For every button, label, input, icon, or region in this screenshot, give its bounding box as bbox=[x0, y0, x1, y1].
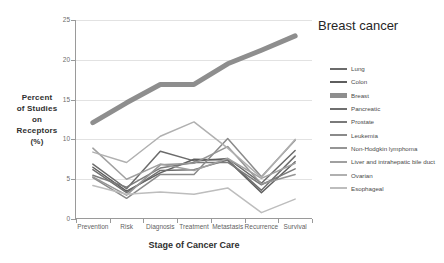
legend-item-label: Breast bbox=[351, 92, 369, 99]
x-axis-tick-label: Risk bbox=[120, 223, 133, 230]
legend: LungColonBreastPancreaticProstateLeukemi… bbox=[330, 62, 442, 195]
x-axis-tick-mark bbox=[245, 219, 246, 223]
x-axis-tick-mark bbox=[143, 219, 144, 223]
y-axis-tick-label: 15 bbox=[50, 96, 70, 103]
legend-swatch-icon bbox=[330, 93, 347, 98]
x-axis-tick-mark bbox=[177, 219, 178, 223]
y-axis-tick-label: 0 bbox=[50, 215, 70, 222]
legend-item[interactable]: Prostate bbox=[330, 115, 442, 128]
y-axis-label-line: on bbox=[8, 114, 66, 125]
x-axis-tick-label: Survival bbox=[284, 223, 307, 230]
x-axis-label: Stage of Cancer Care bbox=[76, 240, 312, 250]
legend-swatch-icon bbox=[330, 81, 347, 83]
legend-item-label: Prostate bbox=[351, 118, 374, 125]
x-axis-tick-mark bbox=[312, 219, 313, 223]
y-axis-label-line: of Studies bbox=[8, 103, 66, 114]
legend-swatch-icon bbox=[330, 187, 347, 189]
x-axis-tick-label: Treatment bbox=[179, 223, 208, 230]
legend-swatch-icon bbox=[330, 174, 347, 176]
breast-cancer-annotation: Breast cancer bbox=[318, 18, 398, 33]
line-chart-figure: Percent of Studies on Receptors (%) 0510… bbox=[0, 0, 444, 263]
legend-swatch-icon bbox=[330, 121, 347, 123]
legend-item-label: Colon bbox=[351, 78, 367, 85]
legend-item-label: Non-Hodgkin lymphoma bbox=[351, 145, 417, 152]
legend-item-label: Liver and intrahepatic bile duct bbox=[351, 158, 435, 165]
legend-item-label: Esophageal bbox=[351, 185, 384, 192]
legend-item-label: Pancreatic bbox=[351, 105, 380, 112]
legend-swatch-icon bbox=[330, 134, 347, 136]
legend-swatch-icon bbox=[330, 108, 347, 110]
plot-area: 0510152025 PreventionRiskDiagnosisTreatm… bbox=[76, 20, 312, 219]
y-axis-tick-label: 25 bbox=[50, 16, 70, 23]
legend-swatch-icon bbox=[330, 68, 347, 70]
legend-item-label: Lung bbox=[351, 65, 365, 72]
legend-item[interactable]: Breast bbox=[330, 89, 442, 102]
x-axis-tick-mark bbox=[76, 219, 77, 223]
legend-swatch-icon bbox=[330, 161, 347, 163]
x-axis-tick-mark bbox=[110, 219, 111, 223]
legend-item[interactable]: Leukemia bbox=[330, 128, 442, 141]
y-axis-tick-label: 10 bbox=[50, 135, 70, 142]
legend-item[interactable]: Ovarian bbox=[330, 168, 442, 181]
x-axis-tick-mark bbox=[211, 219, 212, 223]
x-axis-tick-mark bbox=[278, 219, 279, 223]
y-axis-tick-label: 5 bbox=[50, 175, 70, 182]
y-axis-tick-label: 20 bbox=[50, 56, 70, 63]
x-axis-tick-label: Recurrence bbox=[245, 223, 279, 230]
legend-item[interactable]: Pancreatic bbox=[330, 102, 442, 115]
legend-item[interactable]: Non-Hodgkin lymphoma bbox=[330, 142, 442, 155]
x-axis-tick-label: Prevention bbox=[77, 223, 108, 230]
legend-item-label: Leukemia bbox=[351, 132, 378, 139]
legend-item-label: Ovarian bbox=[351, 172, 373, 179]
series-lines bbox=[76, 20, 312, 219]
legend-item[interactable]: Liver and intrahepatic bile duct bbox=[330, 155, 442, 168]
legend-item[interactable]: Lung bbox=[330, 62, 442, 75]
x-axis-tick-label: Diagnosis bbox=[146, 223, 175, 230]
x-axis-tick-label: Metastasis bbox=[212, 223, 243, 230]
legend-item[interactable]: Colon bbox=[330, 75, 442, 88]
series-line bbox=[93, 36, 295, 123]
legend-swatch-icon bbox=[330, 147, 347, 149]
legend-item[interactable]: Esophageal bbox=[330, 182, 442, 195]
y-axis-label-line: Receptors bbox=[8, 125, 66, 136]
